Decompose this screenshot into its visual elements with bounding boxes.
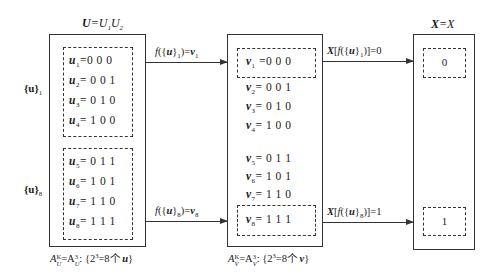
u-row-3: u3= 0 1 0: [69, 94, 116, 109]
u-var: u: [69, 74, 76, 86]
res-sub: 1: [195, 52, 199, 60]
u-value: = 0 0 1: [80, 74, 116, 86]
cap-rest: : {2: [79, 253, 95, 264]
x-value-0: 0: [442, 56, 448, 68]
x-value-0-box: 0: [423, 48, 466, 78]
x: X: [327, 45, 334, 56]
arrow-u1-to-v1: [146, 62, 227, 63]
u-row-6: u6= 1 0 1: [69, 175, 116, 190]
v-value: = 1 0 0: [256, 119, 292, 131]
group-u1-text: {u}: [24, 82, 39, 94]
v-row-4: v4= 1 0 0: [246, 119, 291, 134]
v-row-3: v3= 0 1 0: [246, 100, 291, 115]
v-value: = 0 1 0: [256, 100, 292, 112]
u-value: = 0 1 1: [80, 155, 116, 167]
u-var: u: [69, 215, 76, 227]
arrow-v8-to-x1: [323, 222, 413, 223]
cap-tail: =8个: [276, 253, 300, 264]
arrow-x1-label: X[f({u}8)]=1: [327, 206, 382, 220]
tail: )]=0: [363, 45, 381, 56]
v-value: = 1 1 0: [256, 188, 292, 200]
v-value: =0 0 0: [256, 55, 292, 67]
v-row-6: v6= 1 0 1: [246, 170, 291, 185]
u-var: u: [69, 114, 76, 126]
u-row-2: u2= 0 0 1: [69, 74, 116, 89]
u-row-8: u8= 1 1 1: [69, 215, 116, 230]
open2: ({: [340, 45, 349, 56]
u-value: =0 0 0: [80, 54, 113, 66]
group-u1-label: {u}1: [24, 82, 42, 97]
cap-eq: =A: [239, 253, 253, 264]
cap-eq: =A: [61, 253, 75, 264]
u-var: u: [69, 94, 76, 106]
cap-close: }: [128, 253, 133, 264]
box-u-title: U=U1U2: [82, 16, 123, 32]
arrow-u1-label: f({u}1)=v1: [155, 46, 198, 60]
arrow-x0-label: X[f({u}1)]=0: [327, 45, 382, 59]
u-value: = 1 0 0: [80, 114, 116, 126]
open2: ({: [340, 206, 349, 217]
u-value: = 1 1 1: [80, 215, 116, 227]
box-v-caption: AKV=A3V: {23=8个 v}: [228, 250, 309, 267]
title-u-bold: U: [82, 16, 91, 30]
u-row-5: u5= 0 1 1: [69, 155, 116, 170]
u-var: u: [69, 155, 76, 167]
group-u8-text: {u}: [24, 183, 39, 195]
v-row-5: v5= 0 1 1: [246, 152, 291, 167]
v-value: = 1 0 1: [256, 170, 292, 182]
u-value: = 1 1 0: [80, 195, 116, 207]
tail: )]=1: [363, 206, 381, 217]
cap-rest: : {2: [257, 253, 273, 264]
v-value: = 0 0 1: [256, 81, 292, 93]
title-u-sub2: 2: [120, 24, 124, 32]
v-value: = 0 1 1: [256, 152, 292, 164]
res-sub: 8: [195, 211, 199, 219]
x: X: [327, 206, 334, 217]
v-value: = 1 1 1: [256, 213, 292, 225]
u-row-4: u4= 1 0 0: [69, 114, 116, 129]
box-x-title: X=X: [431, 17, 454, 32]
title-x-bold: X: [431, 17, 439, 31]
title-u-rest: =U: [91, 16, 108, 30]
u-var: u: [69, 195, 76, 207]
v-row-1: v1 =0 0 0: [246, 55, 291, 70]
v-row-2: v2= 0 0 1: [246, 81, 291, 96]
eq: )=: [181, 205, 190, 216]
u-value: = 1 0 1: [80, 175, 116, 187]
cap-close: }: [304, 253, 309, 264]
v-row-8: v8= 1 1 1: [246, 213, 291, 228]
group-u8-sub: 8: [39, 190, 43, 198]
u-value: = 0 1 0: [80, 94, 116, 106]
eq: )=: [181, 46, 190, 57]
u-var: u: [69, 54, 76, 66]
group-u1-sub: 1: [39, 89, 43, 97]
u-row-7: u7= 1 1 0: [69, 195, 116, 210]
group-u8-label: {u}8: [24, 183, 42, 198]
x-value-1: 1: [442, 215, 448, 227]
v-row-7: v7= 1 1 0: [246, 188, 291, 203]
x-value-1-box: 1: [423, 207, 466, 236]
arrow-u8-to-v8: [146, 221, 227, 222]
arrow-v1-to-x0: [323, 61, 413, 62]
arrow-u8-label: f({u}8)=v8: [155, 205, 198, 219]
box-u-caption: AKU=A3U: {23=8个 u}: [50, 250, 133, 267]
title-u-mid: U: [111, 16, 120, 30]
cap-tail: =8个: [98, 253, 122, 264]
title-x-rest: =X: [439, 17, 454, 31]
u-var: u: [69, 175, 76, 187]
u-row-1: u1=0 0 0: [69, 54, 112, 69]
